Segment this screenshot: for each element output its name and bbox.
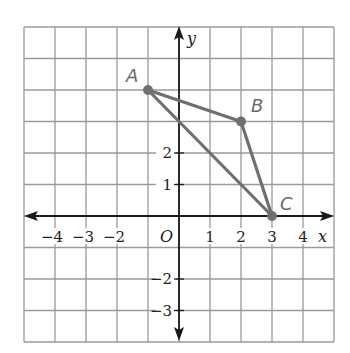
coordinate-plane: −4−3−21234 21−2−3 y x O ABC <box>0 0 350 353</box>
y-tick-label: 1 <box>162 176 172 194</box>
point-a <box>143 85 153 95</box>
point-c <box>267 211 277 221</box>
x-tick-label: −4 <box>41 228 63 246</box>
x-tick-label: 1 <box>205 228 215 246</box>
x-tick-label: −2 <box>103 228 125 246</box>
y-tick-label: −2 <box>150 270 172 288</box>
x-axis-label: x <box>318 227 327 246</box>
point-label-c: C <box>280 193 293 214</box>
y-tick-label: 2 <box>162 144 172 162</box>
point-label-b: B <box>251 95 263 116</box>
point-b <box>236 117 246 127</box>
x-tick-label: 2 <box>236 228 246 246</box>
origin-label: O <box>160 227 173 246</box>
y-axis-label: y <box>186 29 197 48</box>
x-tick-label: −3 <box>72 228 94 246</box>
y-tick-label: −3 <box>150 302 172 320</box>
point-label-a: A <box>125 65 138 86</box>
x-tick-labels: −4−3−21234 <box>41 228 314 246</box>
x-tick-label: 3 <box>267 228 277 246</box>
triangle-abc: ABC <box>125 65 293 221</box>
x-tick-label: 4 <box>298 228 308 246</box>
